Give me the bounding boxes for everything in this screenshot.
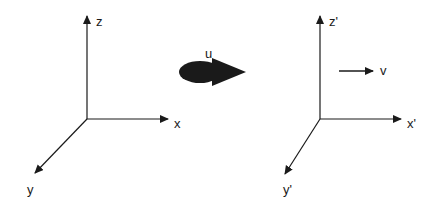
left-coordinate-frame: z x y xyxy=(27,14,181,197)
coordinate-transform-diagram: z x y u z' x' y' v xyxy=(0,0,437,207)
transform-arrow-u: u xyxy=(179,46,246,86)
y-axis-label: y xyxy=(27,182,34,197)
transform-arrow-label: u xyxy=(205,46,212,61)
x-prime-axis-label: x' xyxy=(407,116,416,131)
z-prime-axis-label: z' xyxy=(329,14,338,29)
velocity-arrow-label: v xyxy=(380,63,387,78)
right-coordinate-frame: z' x' y' v xyxy=(283,14,416,197)
y-axis xyxy=(35,119,87,173)
y-prime-axis-label: y' xyxy=(283,182,292,197)
y-prime-axis xyxy=(285,119,320,174)
x-axis-label: x xyxy=(174,116,181,131)
z-axis-label: z xyxy=(96,14,103,29)
bold-right-arrow-icon xyxy=(179,58,246,86)
